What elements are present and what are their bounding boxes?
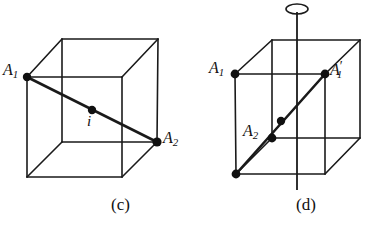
label-a1-d-sub: 1 bbox=[219, 66, 224, 78]
label-a2-d-base: A bbox=[243, 122, 253, 139]
figure-root: A1 A2 i (c) bbox=[0, 0, 366, 229]
cube-d-edge-front-left bbox=[235, 74, 236, 174]
label-a1-prime-d-sub: 1 bbox=[337, 68, 342, 80]
point-a1-prime-d bbox=[321, 70, 330, 79]
label-a1-d-base: A bbox=[209, 59, 219, 76]
point-a1-d bbox=[231, 70, 240, 79]
label-a2-d-sub: 2 bbox=[253, 129, 258, 141]
cube-d-edge-br bbox=[325, 138, 360, 174]
label-a2-d: A2 bbox=[243, 123, 258, 141]
point-a2-d bbox=[268, 134, 277, 143]
label-a1-d: A1 bbox=[209, 60, 224, 78]
caption-panel-d: (d) bbox=[296, 196, 316, 213]
label-a1-prime-d: A′1 bbox=[330, 60, 342, 80]
point-corner-d bbox=[232, 170, 241, 179]
point-center-d bbox=[277, 117, 285, 125]
cube-d-edge-tl bbox=[235, 40, 272, 74]
